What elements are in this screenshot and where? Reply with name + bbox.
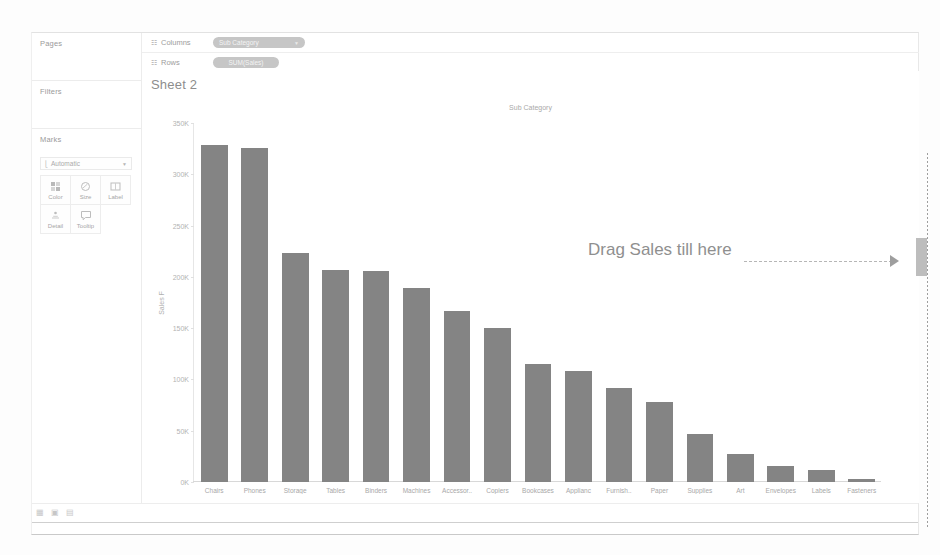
x-axis-tick-label: Furnish.. bbox=[599, 487, 639, 494]
bar-slot bbox=[315, 123, 355, 482]
x-axis-tick-label: Tables bbox=[315, 487, 355, 494]
y-axis-tick-label: 350K bbox=[173, 120, 189, 127]
bar-slot bbox=[356, 123, 396, 482]
bar-mark[interactable] bbox=[767, 466, 794, 482]
status-bar: ▦ ▣ ▤ bbox=[32, 503, 918, 534]
marks-label-label: Label bbox=[108, 194, 123, 200]
bar-slot bbox=[234, 123, 274, 482]
worksheet-view[interactable]: Sheet 2 Sub Category Sales F 350K300K250… bbox=[142, 71, 919, 503]
bar-mark[interactable] bbox=[525, 364, 552, 482]
marks-type-value: Automatic bbox=[51, 160, 122, 167]
bar-mark[interactable] bbox=[646, 402, 673, 482]
rows-shelf-label: Rows bbox=[161, 58, 213, 67]
bar-mark[interactable] bbox=[322, 270, 349, 482]
marks-card-title: Marks bbox=[32, 129, 141, 144]
bar-mark[interactable] bbox=[687, 434, 714, 482]
marks-buttons-row: Detail Tooltip bbox=[40, 204, 133, 233]
drop-zone-indicator[interactable] bbox=[927, 153, 928, 528]
x-axis-tick-label: Supplies bbox=[680, 487, 720, 494]
x-axis-tick-label: Accessor.. bbox=[437, 487, 477, 494]
new-dashboard-icon[interactable]: ▤ bbox=[66, 508, 74, 517]
bar-mark[interactable] bbox=[727, 454, 754, 482]
bar-slot bbox=[639, 123, 679, 482]
marks-color-button[interactable]: Color bbox=[40, 175, 71, 205]
y-axis-tick-label: 150K bbox=[173, 325, 189, 332]
bar-chart[interactable]: Sales F 350K300K250K200K150K100K50K0K Ch… bbox=[194, 123, 882, 482]
bar-mark[interactable] bbox=[565, 371, 592, 482]
bar-slot bbox=[396, 123, 436, 482]
drag-handle[interactable] bbox=[916, 238, 927, 276]
pages-card[interactable]: Pages bbox=[32, 33, 141, 81]
bar-mark[interactable] bbox=[606, 388, 633, 482]
x-axis-tick-label: Copiers bbox=[477, 487, 517, 494]
bar-slot bbox=[194, 123, 234, 482]
marks-size-button[interactable]: Size bbox=[70, 175, 101, 205]
x-axis-tick-label: Storage bbox=[275, 487, 315, 494]
x-axis-tick-label: Bookcases bbox=[518, 487, 558, 494]
y-axis-tick-label: 250K bbox=[173, 222, 189, 229]
x-axis-tick-label: Paper bbox=[639, 487, 679, 494]
marks-type-select[interactable]: ⎣ Automatic ▼ bbox=[40, 157, 132, 170]
chevron-down-icon[interactable]: ▼ bbox=[294, 40, 299, 46]
columns-shelf-label: Columns bbox=[161, 38, 213, 47]
filters-card-title: Filters bbox=[32, 81, 141, 96]
x-axis-tick-label: Applianc bbox=[558, 487, 598, 494]
pages-card-title: Pages bbox=[32, 33, 141, 48]
pill-sum-sales-label: SUM(Sales) bbox=[228, 59, 263, 66]
bar-series bbox=[194, 123, 882, 482]
bar-mark[interactable] bbox=[444, 311, 471, 482]
bar-mark[interactable] bbox=[201, 145, 228, 482]
bar-mark[interactable] bbox=[282, 253, 309, 482]
columns-shelf[interactable]: ☷ Columns Sub Category ▼ bbox=[142, 33, 919, 53]
bar-mark[interactable] bbox=[848, 479, 875, 482]
main-area: ☷ Columns Sub Category ▼ ☷ Rows SUM(Sale… bbox=[142, 33, 919, 503]
cards-column: Pages Filters Marks ⎣ Automatic ▼ bbox=[32, 33, 142, 503]
y-axis-title: Sales F bbox=[158, 291, 165, 315]
color-icon bbox=[50, 181, 61, 193]
pill-sub-category-label: Sub Category bbox=[219, 39, 259, 46]
column-field-header: Sub Category bbox=[142, 104, 919, 111]
bar-slot bbox=[801, 123, 841, 482]
marks-detail-label: Detail bbox=[48, 223, 63, 229]
x-axis-labels: ChairsPhonesStorageTablesBindersMachines… bbox=[194, 487, 882, 494]
x-axis-tick-label: Binders bbox=[356, 487, 396, 494]
bar-mark-icon: ⎣ bbox=[45, 160, 48, 167]
instruction-annotation: Drag Sales till here bbox=[588, 240, 732, 260]
tooltip-icon bbox=[80, 210, 92, 222]
marks-color-label: Color bbox=[48, 194, 62, 200]
bar-mark[interactable] bbox=[363, 271, 390, 482]
marks-size-label: Size bbox=[80, 194, 92, 200]
bar-slot bbox=[477, 123, 517, 482]
y-axis-tick-label: 200K bbox=[173, 273, 189, 280]
chevron-down-icon[interactable]: ▼ bbox=[122, 161, 127, 167]
y-axis-tick-label: 0K bbox=[180, 479, 189, 486]
sheet-tab-icon[interactable]: ▦ bbox=[36, 508, 44, 517]
marks-buttons-row: Color Size bbox=[40, 175, 133, 204]
x-axis-tick-label: Fasteners bbox=[842, 487, 882, 494]
marks-label-button[interactable]: Label bbox=[100, 175, 131, 205]
bar-slot bbox=[599, 123, 639, 482]
bar-mark[interactable] bbox=[484, 328, 511, 482]
annotation-leader-line bbox=[744, 261, 892, 262]
bar-slot bbox=[720, 123, 760, 482]
bar-mark[interactable] bbox=[808, 470, 835, 482]
filters-card[interactable]: Filters bbox=[32, 81, 141, 129]
x-axis-tick-label: Art bbox=[720, 487, 760, 494]
new-worksheet-icon[interactable]: ▣ bbox=[51, 508, 59, 517]
pill-sub-category[interactable]: Sub Category ▼ bbox=[213, 37, 305, 48]
marks-tooltip-label: Tooltip bbox=[77, 223, 94, 229]
label-icon bbox=[110, 181, 121, 193]
status-bar-divider bbox=[32, 522, 918, 523]
bar-slot bbox=[761, 123, 801, 482]
bar-mark[interactable] bbox=[403, 288, 430, 482]
marks-detail-button[interactable]: Detail bbox=[40, 204, 71, 234]
grid-icon: ☷ bbox=[151, 59, 157, 67]
y-axis-tick-label: 50K bbox=[177, 427, 189, 434]
rows-shelf[interactable]: ☷ Rows SUM(Sales) bbox=[142, 53, 919, 73]
marks-tooltip-button[interactable]: Tooltip bbox=[70, 204, 101, 234]
x-axis-tick-label: Phones bbox=[234, 487, 274, 494]
tableau-worksheet-screenshot: Pages Filters Marks ⎣ Automatic ▼ bbox=[0, 0, 940, 555]
bar-mark[interactable] bbox=[241, 148, 268, 482]
marks-card[interactable]: Marks ⎣ Automatic ▼ bbox=[32, 129, 141, 503]
pill-sum-sales[interactable]: SUM(Sales) bbox=[213, 57, 279, 68]
